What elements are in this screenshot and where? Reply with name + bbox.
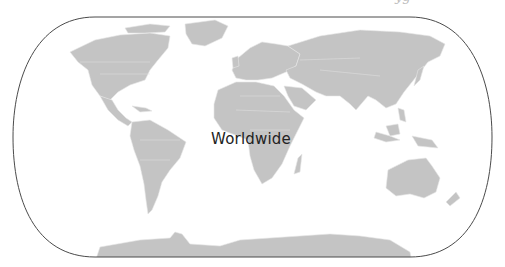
madagascar bbox=[294, 154, 302, 174]
uk bbox=[232, 56, 239, 68]
clipped-top-text: yg bbox=[395, 0, 411, 4]
new-zealand bbox=[446, 192, 460, 206]
philippines bbox=[398, 108, 406, 122]
indonesia bbox=[374, 124, 438, 148]
region-label: Worldwide bbox=[211, 130, 291, 148]
greenland bbox=[185, 20, 228, 46]
south-america bbox=[130, 120, 186, 214]
north-america bbox=[70, 33, 170, 100]
central-america bbox=[100, 96, 132, 126]
caribbean bbox=[132, 106, 152, 112]
arctic-islands bbox=[125, 24, 170, 33]
australia bbox=[386, 158, 440, 198]
